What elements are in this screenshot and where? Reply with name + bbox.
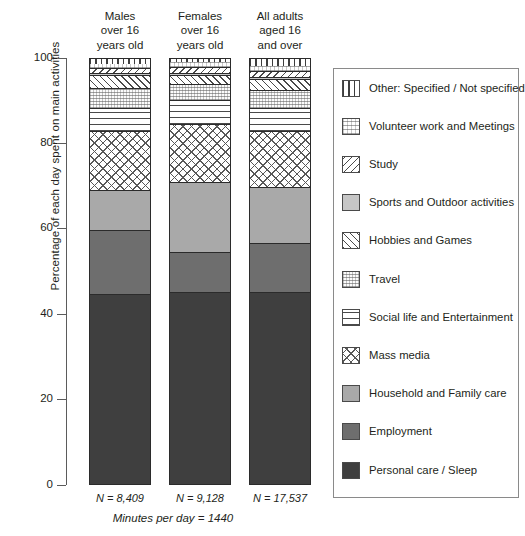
bar-segment-sports-and-outdoor-activities (90, 74, 150, 76)
bar-column-females (169, 58, 231, 485)
y-axis-tick-label: 100 (19, 52, 53, 63)
column-header-females: Females over 16 years old (157, 9, 243, 52)
bar-segment-other-specified-not-specified (170, 59, 230, 63)
swatch-social-icon (342, 309, 360, 326)
bar-segment-study (250, 72, 310, 78)
column-header-males: Males over 16 years old (77, 9, 163, 52)
legend-item-travel[interactable]: Travel (342, 270, 400, 288)
legend-item-household-and-family-care[interactable]: Household and Family care (342, 385, 507, 403)
y-axis-tick-label: 40 (19, 308, 53, 319)
swatch-sports-icon (342, 194, 360, 211)
bar-segment-volunteer-work-and-meetings (250, 66, 310, 72)
swatch-other-icon (342, 80, 360, 97)
legend-item-label: Personal care / Sleep (369, 464, 477, 477)
legend-item-label: Travel (369, 273, 400, 286)
bar-segment-travel (250, 91, 310, 109)
swatch-personal-icon (342, 462, 360, 479)
bar-segment-household-and-family-care (250, 188, 310, 244)
bar-segment-sports-and-outdoor-activities (250, 78, 310, 80)
swatch-volunteer-icon (342, 118, 360, 135)
legend-item-label: Household and Family care (369, 387, 507, 400)
bar-segment-other-specified-not-specified (250, 59, 310, 67)
bar-segment-study (90, 69, 150, 74)
minutes-per-day-note: Minutes per day = 1440 (48, 512, 298, 524)
bar-segment-hobbies-and-games (90, 76, 150, 89)
y-axis-tick-label: 20 (19, 393, 53, 404)
swatch-household-icon (342, 385, 360, 402)
y-axis-tick-label: 0 (19, 479, 53, 490)
bar-column-males (89, 58, 151, 485)
bar-segment-hobbies-and-games (250, 80, 310, 91)
legend-item-label: Study (369, 158, 398, 171)
legend-item-label: Employment (369, 425, 432, 438)
bar-segment-household-and-family-care (90, 191, 150, 231)
swatch-employment-icon (342, 423, 360, 440)
y-axis-tick (57, 399, 66, 400)
legend-item-label: Sports and Outdoor activities (369, 196, 514, 209)
legend-item-label: Mass media (369, 349, 430, 362)
legend-item-study[interactable]: Study (342, 155, 398, 173)
legend-item-label: Other: Specified / Not specified (369, 82, 525, 95)
y-axis-tick (57, 143, 66, 144)
y-axis-line (66, 58, 67, 485)
y-axis-tick (57, 228, 66, 229)
bar-segment-travel (170, 85, 230, 101)
swatch-massmedia-icon (342, 347, 360, 364)
legend-item-personal-care-sleep[interactable]: Personal care / Sleep (342, 461, 477, 479)
bar-column-all (249, 58, 311, 485)
bar-segment-other-specified-not-specified (90, 59, 150, 65)
y-axis-tick-label: 80 (19, 137, 53, 148)
y-axis-tick (57, 314, 66, 315)
legend-item-mass-media[interactable]: Mass media (342, 346, 430, 364)
bar-segment-sports-and-outdoor-activities (170, 74, 230, 76)
bar-segment-hobbies-and-games (170, 76, 230, 85)
bar-segment-household-and-family-care (170, 183, 230, 253)
legend-item-social-life-and-entertainment[interactable]: Social life and Entertainment (342, 308, 513, 326)
bar-segment-mass-media (90, 132, 150, 192)
bar-segment-personal-care-sleep (250, 293, 310, 484)
bar-segment-volunteer-work-and-meetings (170, 62, 230, 68)
legend-item-hobbies-and-games[interactable]: Hobbies and Games (342, 232, 472, 250)
legend-item-volunteer-work-and-meetings[interactable]: Volunteer work and Meetings (342, 117, 515, 135)
bar-segment-employment (250, 244, 310, 293)
bar-segment-mass-media (250, 132, 310, 188)
column-header-all-adults: All adults aged 16 and over (237, 9, 323, 52)
bar-segment-social-life-and-entertainment (90, 109, 150, 131)
bar-segment-study (170, 68, 230, 74)
legend-item-label: Social life and Entertainment (369, 311, 513, 324)
swatch-hobbies-icon (342, 232, 360, 249)
sample-size-label: N = 17,537 (225, 492, 335, 504)
legend-item-label: Hobbies and Games (369, 234, 472, 247)
bar-segment-personal-care-sleep (90, 295, 150, 484)
bar-segment-volunteer-work-and-meetings (90, 64, 150, 69)
y-axis-tick (57, 485, 66, 486)
legend-item-other-specified-not-specified[interactable]: Other: Specified / Not specified (342, 79, 525, 97)
bar-segment-social-life-and-entertainment (170, 101, 230, 125)
swatch-study-icon (342, 156, 360, 173)
swatch-travel-icon (342, 271, 360, 288)
legend-item-label: Volunteer work and Meetings (369, 120, 515, 133)
bar-segment-mass-media (170, 125, 230, 183)
legend-item-sports-and-outdoor-activities[interactable]: Sports and Outdoor activities (342, 194, 514, 212)
bar-segment-employment (170, 253, 230, 293)
y-axis-tick-label: 60 (19, 222, 53, 233)
bar-segment-personal-care-sleep (170, 293, 230, 484)
chart-legend: Other: Specified / Not specifiedVoluntee… (333, 68, 519, 498)
bar-segment-social-life-and-entertainment (250, 109, 310, 132)
bar-segment-travel (90, 89, 150, 109)
bar-segment-employment (90, 231, 150, 295)
y-axis-tick (57, 58, 66, 59)
legend-item-employment[interactable]: Employment (342, 423, 432, 441)
